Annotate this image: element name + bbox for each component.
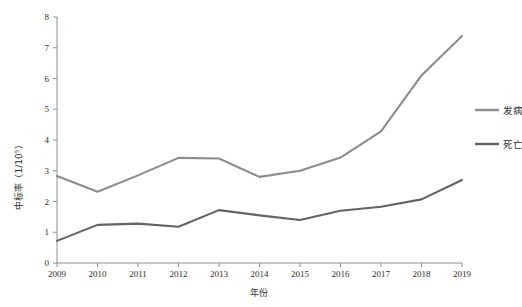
x-tick-label: 2011 xyxy=(129,269,147,279)
y-tick-label: 7 xyxy=(45,43,50,53)
x-tick-label: 2015 xyxy=(291,269,310,279)
chart-canvas: 012345678 200920102011201220132014201520… xyxy=(0,0,522,307)
data-series-group xyxy=(57,36,462,241)
y-tick-group: 012345678 xyxy=(45,12,58,268)
x-tick-label: 2009 xyxy=(48,269,67,279)
x-tick-label: 2013 xyxy=(210,269,229,279)
x-tick-label: 2014 xyxy=(251,269,270,279)
x-tick-label: 2018 xyxy=(413,269,432,279)
line-chart: 012345678 200920102011201220132014201520… xyxy=(0,0,522,307)
x-tick-label: 2012 xyxy=(170,269,188,279)
x-axis-title-label: 年份 xyxy=(250,287,268,298)
x-axis: 2009201020112012201320142015201620172018… xyxy=(48,263,472,279)
x-tick-label: 2010 xyxy=(89,269,108,279)
y-tick-label: 6 xyxy=(45,74,50,84)
y-tick-label: 3 xyxy=(45,166,50,176)
legend: 发病死亡 xyxy=(475,105,522,150)
series-line-发病 xyxy=(57,36,462,192)
legend-label-死亡: 死亡 xyxy=(503,139,522,150)
y-axis-title: 中标率（1/105） xyxy=(13,140,24,209)
x-tick-group: 2009201020112012201320142015201620172018… xyxy=(48,263,472,279)
series-line-死亡 xyxy=(57,180,462,241)
y-tick-label: 5 xyxy=(45,104,50,114)
y-axis: 012345678 xyxy=(45,12,58,268)
x-tick-label: 2016 xyxy=(332,269,351,279)
y-tick-label: 2 xyxy=(45,197,50,207)
x-tick-label: 2019 xyxy=(453,269,472,279)
y-tick-label: 4 xyxy=(45,135,50,145)
legend-label-发病: 发病 xyxy=(503,105,522,116)
y-tick-label: 8 xyxy=(45,12,50,22)
y-axis-title-label: 中标率（1/105） xyxy=(13,140,24,209)
y-tick-label: 1 xyxy=(45,227,50,237)
y-tick-label: 0 xyxy=(45,258,50,268)
x-tick-label: 2017 xyxy=(372,269,391,279)
